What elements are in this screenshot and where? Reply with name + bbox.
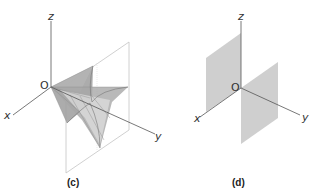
origin-label: O — [231, 81, 240, 94]
panel-c: z O x y (c) — [3, 10, 162, 188]
origin-label: O — [40, 79, 49, 92]
z-axis-label: z — [237, 10, 244, 23]
panel-caption-c: (c) — [67, 177, 79, 188]
z-axis-label: z — [47, 10, 54, 23]
x-axis-label: x — [193, 112, 201, 125]
y-axis-label: y — [154, 130, 162, 143]
panel-d: z O x y (d) — [193, 10, 309, 188]
x-axis-label: x — [3, 109, 11, 122]
y-axis-label: y — [301, 111, 309, 124]
figure-canvas: z O x y (c) z O x y (d) — [0, 0, 315, 190]
lower-half-plane — [241, 62, 278, 144]
panel-caption-d: (d) — [232, 177, 245, 188]
